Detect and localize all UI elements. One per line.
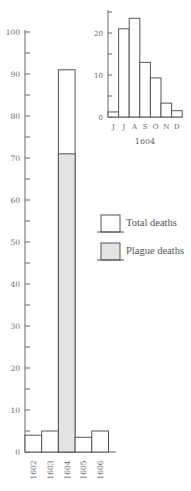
year-label: 1604 — [63, 460, 72, 479]
inset-month-bar — [172, 111, 183, 117]
main-ytick-label: 100 — [6, 28, 21, 37]
main-ytick-label: 40 — [10, 280, 20, 289]
main-ytick-label: 30 — [10, 322, 20, 331]
inset-month-bar — [161, 103, 172, 117]
month-label: S — [143, 123, 148, 131]
inset-ytick-label: 0 — [99, 114, 103, 122]
inset-ytick-label: 10 — [94, 72, 103, 80]
total-deaths-bar — [92, 431, 109, 452]
inset-month-bar — [119, 29, 130, 117]
total-deaths-bar — [25, 435, 42, 452]
inset-ytick-label: 20 — [94, 30, 103, 38]
main-ytick-label: 80 — [10, 112, 20, 121]
main-ytick-label: 20 — [10, 364, 20, 373]
year-label: 1606 — [96, 460, 105, 479]
legend-total-label: Total deaths — [126, 217, 177, 228]
main-ytick-label: 0 — [15, 448, 20, 457]
total-deaths-bar — [75, 437, 92, 452]
year-label: 1602 — [29, 460, 38, 479]
inset-month-bar — [108, 112, 119, 117]
main-ytick-label: 60 — [10, 196, 20, 205]
inset-month-bar — [129, 18, 140, 117]
month-label: A — [131, 123, 138, 131]
month-label: J — [121, 123, 125, 131]
legend-plague-swatch — [101, 243, 120, 260]
inset-month-bar — [140, 62, 151, 117]
plague-deaths-bar — [58, 154, 75, 452]
legend-total-swatch — [101, 215, 120, 232]
main-ytick-label: 70 — [10, 154, 20, 163]
month-label: O — [153, 123, 159, 131]
legend-plague-label: Plague deaths — [126, 245, 184, 256]
main-ytick-label: 10 — [10, 406, 20, 415]
inset-caption: 1604 — [135, 137, 155, 146]
month-label: D — [174, 123, 180, 131]
main-ytick-label: 90 — [10, 70, 20, 79]
year-label: 1603 — [46, 460, 55, 479]
month-label: J — [111, 123, 115, 131]
inset-month-bar — [150, 78, 161, 117]
year-label: 1605 — [79, 460, 88, 479]
total-deaths-bar — [42, 431, 59, 452]
month-label: N — [163, 123, 169, 131]
main-ytick-label: 50 — [10, 238, 20, 247]
